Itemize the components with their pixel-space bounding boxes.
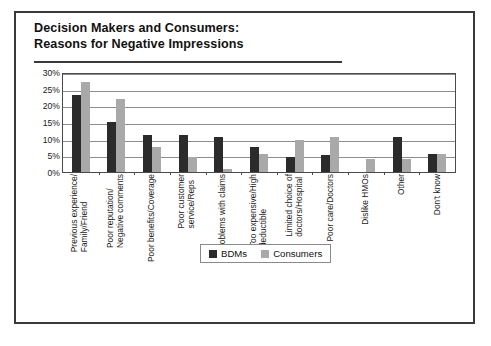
- x-axis-category-label: Poor reputation/Negative comments: [106, 174, 125, 248]
- x-axis-category-label: Problems with claims: [218, 174, 228, 253]
- legend-item[interactable]: Consumers: [261, 248, 322, 259]
- x-label-cell: Poor reputation/Negative comments: [98, 174, 134, 292]
- bar-groups: [63, 74, 455, 172]
- x-axis-category-label: Poor customerservice/Reps: [178, 174, 197, 228]
- legend-item[interactable]: BDMs: [209, 248, 247, 259]
- x-axis-category-label: Don't know: [433, 174, 443, 215]
- bar-bdm: [428, 154, 437, 172]
- x-label-cell: Don't know: [420, 174, 456, 292]
- y-axis-tick-label: 10%: [24, 135, 60, 145]
- chart-legend: BDMsConsumers: [200, 244, 331, 263]
- bar-consumers: [116, 99, 125, 172]
- y-axis-tick-label: 25%: [24, 85, 60, 95]
- y-axis-tick-label: 0%: [24, 168, 60, 178]
- bar-group: [99, 74, 135, 172]
- legend-color-swatch: [261, 250, 269, 258]
- bar-group: [206, 74, 242, 172]
- x-label-cell: Problems with claims: [205, 174, 241, 292]
- y-axis-tick-label: 20%: [24, 101, 60, 111]
- bar-bdm: [393, 137, 402, 172]
- bar-consumers: [223, 169, 232, 172]
- legend-color-swatch: [209, 250, 217, 258]
- bar-consumers: [437, 154, 446, 172]
- bar-bdm: [214, 137, 223, 172]
- legend-label: BDMs: [221, 248, 247, 259]
- chart-figure: Decision Makers and Consumers: Reasons f…: [14, 11, 475, 324]
- x-label-cell: Poor customerservice/Reps: [169, 174, 205, 292]
- bar-bdm: [286, 157, 295, 172]
- bar-group: [419, 74, 455, 172]
- x-label-line: Problems with claims: [218, 174, 228, 253]
- chart-title: Decision Makers and Consumers: Reasons f…: [34, 21, 434, 52]
- x-axis-category-label: Poor benefits/Coverage: [147, 174, 157, 262]
- x-label-line: Family/Friend: [80, 174, 90, 252]
- bar-consumers: [188, 157, 197, 172]
- x-label-line: Negative comments: [116, 174, 126, 248]
- plot-wrapper: 0%5%10%15%20%25%30%: [16, 73, 477, 183]
- x-label-line: Limited choice of: [285, 174, 295, 237]
- bar-consumers: [366, 159, 375, 172]
- x-label-line: Other: [397, 174, 407, 195]
- chart-title-line-1: Decision Makers and Consumers:: [34, 21, 434, 37]
- x-label-cell: Previous experience/Family/Friend: [62, 174, 98, 292]
- chart-title-line-2: Reasons for Negative Impressions: [34, 37, 434, 53]
- bar-group: [277, 74, 313, 172]
- x-label-cell: Dislike HMOs: [349, 174, 385, 292]
- bar-group: [384, 74, 420, 172]
- x-axis-category-label: Too expensive/Highdeductible: [249, 174, 268, 247]
- y-axis: 0%5%10%15%20%25%30%: [24, 73, 60, 173]
- x-axis-category-label: Poor care/Doctors: [326, 174, 336, 242]
- x-label-cell: Limited choice ofdoctors/Hospital: [277, 174, 313, 292]
- x-label-cell: Too expensive/Highdeductible: [241, 174, 277, 292]
- bar-consumers: [402, 159, 411, 172]
- bar-group: [241, 74, 277, 172]
- y-axis-tick-label: 15%: [24, 118, 60, 128]
- bar-consumers: [259, 154, 268, 172]
- bar-consumers: [295, 140, 304, 172]
- x-label-line: Poor reputation/: [106, 174, 116, 248]
- bar-consumers: [81, 82, 90, 172]
- bar-bdm: [72, 95, 81, 172]
- bar-consumers: [330, 137, 339, 172]
- x-label-line: Don't know: [433, 174, 443, 215]
- bar-bdm: [250, 147, 259, 172]
- y-axis-tick-label: 5%: [24, 151, 60, 161]
- x-axis-category-label: Previous experience/Family/Friend: [70, 174, 89, 252]
- x-label-line: Poor care/Doctors: [326, 174, 336, 242]
- bar-bdm: [143, 135, 152, 172]
- bar-group: [348, 74, 384, 172]
- bar-group: [63, 74, 99, 172]
- x-label-line: service/Reps: [187, 174, 197, 228]
- title-divider: [34, 61, 342, 63]
- bar-group: [312, 74, 348, 172]
- bar-group: [170, 74, 206, 172]
- legend-label: Consumers: [273, 248, 322, 259]
- bar-consumers: [152, 147, 161, 172]
- x-label-cell: Poor benefits/Coverage: [134, 174, 170, 292]
- plot-area: [62, 73, 456, 173]
- x-label-line: Poor benefits/Coverage: [147, 174, 157, 262]
- x-axis-category-label: Dislike HMOs: [362, 174, 372, 225]
- x-axis-category-label: Limited choice ofdoctors/Hospital: [285, 174, 304, 237]
- bar-bdm: [107, 122, 116, 172]
- x-label-line: Dislike HMOs: [362, 174, 372, 225]
- x-axis-category-label: Other: [397, 174, 407, 195]
- x-label-cell: Poor care/Doctors: [313, 174, 349, 292]
- x-label-line: doctors/Hospital: [295, 174, 305, 237]
- bar-group: [134, 74, 170, 172]
- x-label-cell: Other: [384, 174, 420, 292]
- bar-bdm: [321, 155, 330, 172]
- bar-bdm: [179, 135, 188, 172]
- x-axis-labels: Previous experience/Family/FriendPoor re…: [62, 174, 456, 292]
- y-axis-tick-label: 30%: [24, 68, 60, 78]
- x-label-line: deductible: [259, 174, 269, 247]
